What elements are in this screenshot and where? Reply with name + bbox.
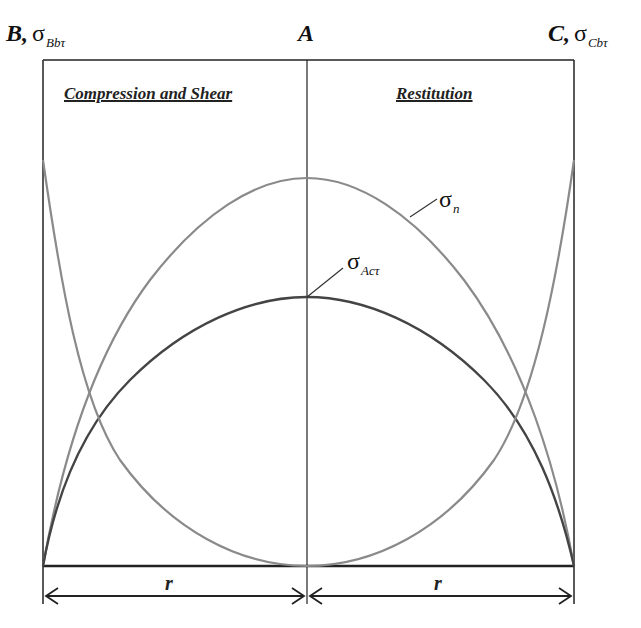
sigma-boundary-curve [43, 160, 574, 566]
sigma-n-leader [410, 199, 437, 217]
dimension-arrows [46, 588, 571, 604]
frame [43, 60, 574, 604]
sigma-act-leader [307, 268, 343, 297]
sigma-act-curve [43, 297, 574, 566]
stress-diagram [0, 0, 641, 628]
sigma-n-curve [43, 178, 574, 566]
